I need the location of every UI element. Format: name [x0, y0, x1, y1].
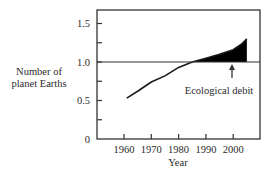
x-axis-ticks: 19601970198019902000 [114, 134, 244, 155]
y-tick-label: 0.5 [77, 95, 90, 106]
ecological-debit-area [192, 39, 247, 62]
footprint-chart: 00.51.01.5 19601970198019902000 Ecologic… [0, 0, 274, 178]
x-tick-label: 1980 [168, 144, 189, 155]
x-tick-label: 1960 [114, 144, 135, 155]
x-tick-label: 1990 [195, 144, 216, 155]
x-axis-label: Year [168, 157, 188, 168]
y-tick-label: 0 [85, 134, 90, 145]
x-tick-label: 1970 [141, 144, 162, 155]
arrow-up-icon [229, 64, 235, 70]
y-tick-label: 1.5 [77, 18, 90, 29]
y-axis-ticks: 00.51.01.5 [77, 18, 102, 145]
ecological-debit-annotation: Ecological debit [185, 64, 254, 96]
plot-frame [97, 10, 260, 139]
y-tick-label: 1.0 [77, 57, 90, 68]
x-tick-label: 2000 [223, 144, 244, 155]
ecological-debit-label: Ecological debit [185, 85, 254, 96]
